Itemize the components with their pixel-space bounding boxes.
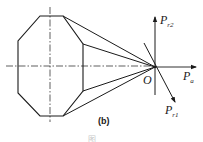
label-pa-sub: a xyxy=(190,77,194,85)
label-pr1-sub: r1 xyxy=(172,111,178,119)
cone-line-outer-bottom xyxy=(63,67,155,116)
truncated-caption: 图 xyxy=(88,136,96,142)
origin-point xyxy=(154,66,157,69)
label-pr2: Pr2 xyxy=(160,14,174,29)
label-pr2-sub: r2 xyxy=(167,21,173,29)
diagram-canvas: Pr2 Pa O Pr1 (b) 图 xyxy=(0,0,203,142)
label-pa: Pa xyxy=(183,70,194,85)
label-pr1: Pr1 xyxy=(165,104,179,119)
subfigure-label: (b) xyxy=(98,117,110,126)
label-origin: O xyxy=(143,74,152,86)
cone-line-outer-top xyxy=(63,16,155,67)
